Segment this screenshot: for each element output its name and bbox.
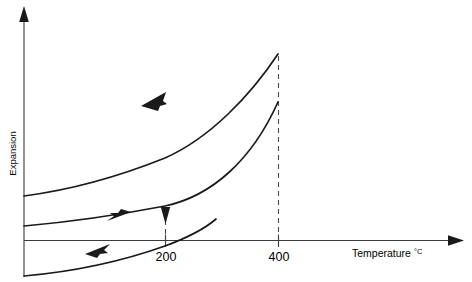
x-tick-label-200: 200 <box>152 250 180 264</box>
y-axis-label: Expansion <box>7 116 18 192</box>
curve-upper-cooling <box>24 54 278 196</box>
x-axis-label-unit: °C <box>414 247 422 256</box>
x-axis-label-container: Temperature°C <box>352 243 422 261</box>
expansion-temperature-diagram: Expansion 200 400 Temperature°C <box>0 0 472 282</box>
x-axis-label: Temperature <box>352 247 411 259</box>
x-tick-label-400: 400 <box>265 250 293 264</box>
y-axis-arrow-icon <box>19 6 29 22</box>
curve-lower-return <box>24 219 216 276</box>
arrow-drop-at-200-icon <box>161 207 170 224</box>
arrow-cooling-upper-icon <box>141 92 167 111</box>
x-axis-arrow-icon <box>448 235 464 245</box>
y-axis-label-container: Expansion <box>0 118 18 198</box>
arrow-return-bottom-icon <box>85 244 110 258</box>
diagram-canvas <box>0 0 472 282</box>
